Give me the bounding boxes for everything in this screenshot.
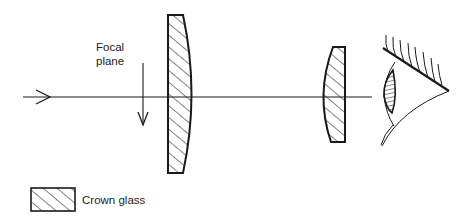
eye-lens (323, 47, 345, 142)
focal-plane-label: Focal plane (96, 41, 124, 67)
legend: Crown glass (31, 188, 146, 211)
focal-plane-arrow (138, 63, 148, 125)
eyepiece-diagram: Focal plane (0, 0, 473, 221)
crown-glass-swatch (31, 188, 75, 211)
optical-axis (23, 90, 372, 104)
eye-icon (381, 35, 449, 146)
legend-label: Crown glass (82, 194, 146, 206)
field-lens (168, 15, 192, 173)
focal-label-line1: Focal (96, 41, 124, 53)
focal-label-line2: plane (96, 55, 124, 67)
